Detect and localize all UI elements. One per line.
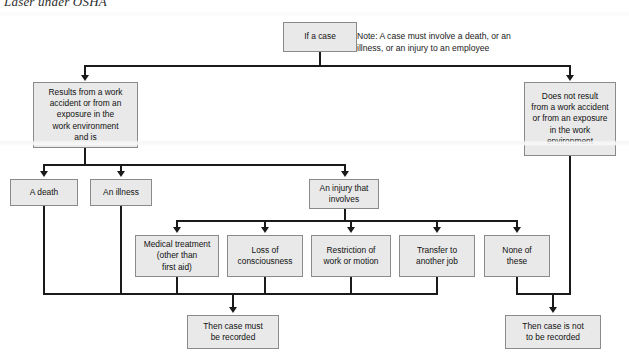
node-not-work-related[interactable]: Does not result from a work accident or … bbox=[524, 82, 616, 156]
arrow-to-loss-of-consciousness-icon bbox=[261, 227, 269, 233]
node-medical-treatment-label: Medical treatment (other than first aid) bbox=[144, 239, 211, 273]
node-then-case-is-not-to-be-recorded-label: Then case is not to be recorded bbox=[522, 321, 583, 343]
arrow-to-not-work-related-icon bbox=[566, 75, 574, 81]
node-if-a-case-label: If a case bbox=[304, 31, 336, 42]
scan-artifact-band-top bbox=[0, 12, 629, 16]
arrow-to-transfer-icon bbox=[433, 227, 441, 233]
node-then-case-is-not-to-be-recorded[interactable]: Then case is not to be recorded bbox=[505, 315, 601, 349]
connector-to-recordable bbox=[232, 293, 234, 308]
node-medical-treatment[interactable]: Medical treatment (other than first aid) bbox=[135, 235, 219, 277]
note-text: Note: A case must involve a death, or an… bbox=[357, 30, 553, 54]
node-none-of-these-label: None of these bbox=[502, 245, 531, 267]
arrow-to-restriction-icon bbox=[347, 227, 355, 233]
connector-level1-bus bbox=[85, 65, 570, 67]
connector-loss-of-consciousness-drop bbox=[264, 277, 266, 294]
node-if-a-case[interactable]: If a case bbox=[283, 22, 357, 52]
arrow-to-recordable-icon bbox=[229, 307, 237, 313]
arrow-to-work-related-icon bbox=[81, 75, 89, 81]
flowchart-canvas: Laser under OSHA If a case Note: A case … bbox=[0, 0, 629, 359]
connector-restriction-drop bbox=[350, 277, 352, 294]
connector-a-death-drop bbox=[43, 206, 45, 294]
node-loss-of-consciousness[interactable]: Loss of consciousness bbox=[227, 235, 303, 277]
page-caption: Laser under OSHA bbox=[4, 0, 107, 10]
node-a-death[interactable]: A death bbox=[10, 179, 78, 206]
node-then-case-must-be-recorded[interactable]: Then case must be recorded bbox=[187, 315, 279, 349]
connector-not-work-related-drop bbox=[569, 156, 571, 294]
node-restriction-of-work-label: Restriction of work or motion bbox=[324, 245, 379, 267]
arrow-to-a-death-icon bbox=[40, 171, 48, 177]
arrow-to-not-recordable-icon bbox=[549, 307, 557, 313]
connector-start-down bbox=[319, 52, 321, 66]
connector-level2-bus bbox=[43, 164, 346, 166]
connector-recordable-merge-bus bbox=[43, 293, 438, 295]
connector-medical-treatment-drop bbox=[176, 277, 178, 294]
node-transfer-to-another-job-label: Transfer to another job bbox=[416, 245, 458, 267]
arrow-to-an-injury-icon bbox=[341, 171, 349, 177]
connector-to-not-recordable bbox=[552, 293, 554, 308]
node-then-case-must-be-recorded-label: Then case must be recorded bbox=[203, 321, 263, 343]
node-work-related-label: Results from a work accident or from an … bbox=[49, 87, 123, 143]
arrow-to-none-of-these-icon bbox=[513, 227, 521, 233]
connector-transfer-drop bbox=[436, 277, 438, 294]
node-an-illness-label: An illness bbox=[103, 187, 139, 198]
node-none-of-these[interactable]: None of these bbox=[484, 235, 550, 277]
node-not-work-related-label: Does not result from a work accident or … bbox=[531, 91, 608, 147]
node-an-injury[interactable]: An injury that involves bbox=[309, 179, 379, 209]
arrow-to-medical-treatment-icon bbox=[173, 227, 181, 233]
connector-an-illness-drop bbox=[120, 206, 122, 294]
node-work-related[interactable]: Results from a work accident or from an … bbox=[33, 82, 138, 148]
node-an-injury-label: An injury that involves bbox=[320, 183, 369, 205]
node-an-illness[interactable]: An illness bbox=[90, 179, 152, 206]
node-loss-of-consciousness-label: Loss of consciousness bbox=[238, 245, 293, 267]
connector-not-recordable-merge-bus bbox=[516, 293, 571, 295]
connector-none-of-these-drop bbox=[516, 277, 518, 294]
node-a-death-label: A death bbox=[30, 187, 58, 198]
connector-level3-bus bbox=[176, 220, 518, 222]
node-transfer-to-another-job[interactable]: Transfer to another job bbox=[399, 235, 475, 277]
node-restriction-of-work[interactable]: Restriction of work or motion bbox=[311, 235, 391, 277]
arrow-to-an-illness-icon bbox=[117, 171, 125, 177]
